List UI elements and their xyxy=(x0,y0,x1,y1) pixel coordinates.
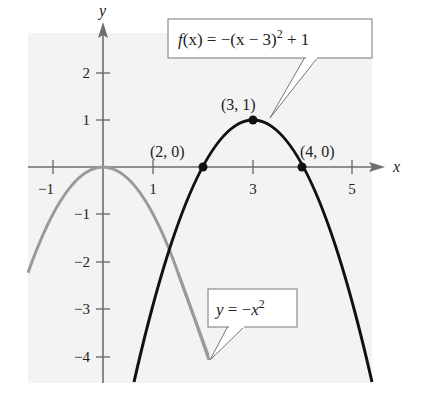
x-tick-label: −1 xyxy=(38,181,54,197)
x-tick-label: 5 xyxy=(348,181,356,197)
y-tick-label: −3 xyxy=(74,301,90,317)
x-axis-label: x xyxy=(392,158,400,175)
svg-text:y = −x2: y = −x2 xyxy=(214,297,265,319)
y-axis-label: y xyxy=(97,2,107,20)
y-tick-label: −1 xyxy=(74,206,90,222)
point-label: (2, 0) xyxy=(150,143,185,161)
x-tick-label: 1 xyxy=(149,181,157,197)
y-tick-label: −2 xyxy=(74,254,90,270)
point-label: (3, 1) xyxy=(221,96,256,114)
y-tick-label: −4 xyxy=(74,349,90,365)
x-tick-label: 3 xyxy=(249,181,257,197)
point-label: (4, 0) xyxy=(300,143,335,161)
y-tick-label: 1 xyxy=(83,112,91,128)
y-tick-label: 2 xyxy=(83,65,91,81)
svg-text:f(x) = −(x − 3)2 + 1: f(x) = −(x − 3)2 + 1 xyxy=(178,27,309,49)
point-3-1 xyxy=(249,116,258,125)
point-4-0 xyxy=(298,163,307,172)
point-2-0 xyxy=(199,163,208,172)
chart: −1 1 3 5 2 1 −1 −2 −3 −4 x y (2, 0) (3, … xyxy=(0,0,432,393)
